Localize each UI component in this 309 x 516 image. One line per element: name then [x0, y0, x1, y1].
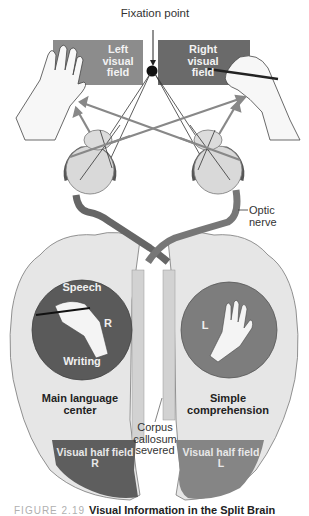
- fixation-point-label: Fixation point: [100, 7, 210, 19]
- simple-line-2: comprehension: [183, 405, 273, 417]
- right-visual-field-label: Right visual field: [172, 44, 234, 79]
- corpus-callosum-right: [163, 270, 175, 420]
- figure-title: Visual Information in the Split Brain: [89, 504, 275, 516]
- eyeball-icon: [66, 130, 114, 194]
- arrow-head-icon: [150, 60, 156, 66]
- optic-line-1: Optic: [249, 205, 299, 217]
- right-field-line-1: Right: [172, 44, 234, 56]
- main-language-center-label: Main language center: [35, 393, 125, 416]
- right-hand-mark: R: [100, 318, 116, 330]
- optic-nerve-label: Optic nerve: [249, 205, 299, 228]
- main-lang-line-2: center: [35, 405, 125, 417]
- right-field-line-3: field: [172, 67, 234, 79]
- main-lang-line-1: Main language: [35, 393, 125, 405]
- vhf-r-line-2: R: [50, 458, 140, 469]
- visual-half-field-r-label: Visual half field R: [50, 447, 140, 469]
- writing-label: Writing: [52, 356, 112, 368]
- corpus-callosum-left: [132, 270, 144, 440]
- open-hand-icon: [16, 45, 86, 140]
- figure-number: FIGURE 2.19: [14, 505, 85, 516]
- split-brain-diagram: Fixation point Left visual field Right v…: [0, 0, 309, 516]
- corpus-callosum-leader: [155, 398, 162, 422]
- left-field-line-3: field: [88, 67, 148, 79]
- left-hand-mark: L: [197, 320, 213, 332]
- visual-half-field-l-label: Visual half field L: [176, 447, 266, 469]
- left-field-line-1: Left: [88, 44, 148, 56]
- vhf-l-line-2: L: [176, 458, 266, 469]
- simple-comprehension-label: Simple comprehension: [183, 393, 273, 416]
- corpus-line-1: Corpus: [124, 422, 186, 434]
- left-visual-field-label: Left visual field: [88, 44, 148, 79]
- speech-label: Speech: [52, 282, 112, 294]
- figure-caption: FIGURE 2.19Visual Information in the Spl…: [14, 505, 309, 516]
- optic-line-2: nerve: [249, 217, 299, 229]
- simple-line-1: Simple: [183, 393, 273, 405]
